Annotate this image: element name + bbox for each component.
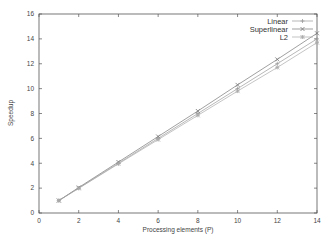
series-l2	[57, 41, 319, 203]
x-tick-label: 2	[77, 217, 81, 224]
legend-item-l2: L2	[280, 33, 313, 42]
plot-frame	[39, 14, 317, 213]
y-tick-label: 16	[27, 10, 35, 17]
x-tick-label: 8	[196, 217, 200, 224]
y-tick-label: 12	[27, 60, 35, 67]
y-tick-label: 0	[30, 209, 34, 216]
speedup-chart: 0246810121416 02468101214 LinearSuperlin…	[0, 0, 336, 245]
x-axis-ticks: 02468101214	[37, 14, 321, 224]
x-tick-label: 10	[234, 217, 242, 224]
x-axis-label: Processing elements (P)	[143, 226, 214, 234]
y-tick-label: 10	[27, 85, 35, 92]
x-tick-label: 6	[156, 217, 160, 224]
x-tick-label: 12	[274, 217, 282, 224]
y-tick-label: 2	[30, 184, 34, 191]
x-tick-label: 0	[37, 217, 41, 224]
y-tick-label: 4	[30, 160, 34, 167]
x-tick-label: 4	[117, 217, 121, 224]
y-tick-label: 14	[27, 35, 35, 42]
y-tick-label: 6	[30, 135, 34, 142]
y-axis-ticks: 0246810121416	[27, 10, 317, 216]
y-tick-label: 8	[30, 110, 34, 117]
x-tick-label: 14	[313, 217, 321, 224]
data-series	[57, 31, 319, 202]
y-axis-label: Speedup	[7, 100, 15, 126]
legend-label: L2	[280, 33, 288, 42]
legend: LinearSuperlinearL2	[250, 17, 313, 42]
